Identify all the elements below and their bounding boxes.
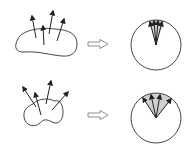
top-mapping-arrow-icon <box>88 40 108 49</box>
top-blob-shape <box>16 28 77 56</box>
normal-arrow-icon <box>49 11 53 34</box>
bottom-normal-arrows <box>23 81 68 115</box>
normal-arrow-icon <box>32 16 36 38</box>
top-gauss-circle-group <box>131 20 181 70</box>
normal-arrow-icon <box>35 93 41 115</box>
bottom-mapping-arrow-icon <box>88 111 108 120</box>
bottom-gauss-circle-group <box>131 93 181 143</box>
normal-arrow-icon <box>43 26 44 45</box>
normal-arrow-icon <box>46 81 51 104</box>
diagram-canvas <box>0 0 189 152</box>
bottom-blob-shape <box>24 99 63 126</box>
top-surface-group <box>16 11 77 56</box>
bottom-surface-group <box>23 81 68 126</box>
normal-arrow-icon <box>23 87 36 107</box>
